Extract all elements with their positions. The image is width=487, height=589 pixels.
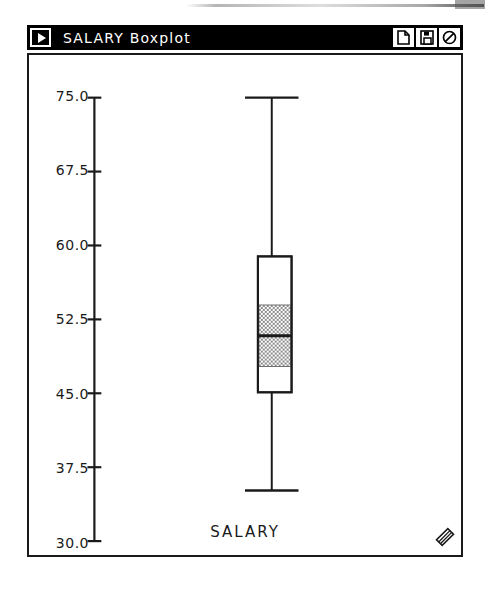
y-axis	[87, 98, 101, 541]
circle-slash-icon	[442, 30, 457, 45]
resize-grip-icon[interactable]	[434, 526, 456, 548]
title-bar-buttons	[393, 28, 460, 47]
close-button[interactable]	[439, 28, 460, 47]
document-icon	[397, 30, 410, 45]
y-tick-label: 67.5	[37, 162, 89, 178]
window-title: SALARY Boxplot	[63, 30, 393, 46]
scan-artifact-streak	[186, 4, 484, 7]
x-axis-label: SALARY	[29, 523, 461, 541]
triangle-right-icon	[38, 33, 46, 43]
y-tick-label: 45.0	[37, 386, 89, 402]
y-tick-label: 52.5	[37, 311, 89, 327]
y-tick-label: 60.0	[37, 237, 89, 253]
plot-frame: 75.0 67.5 60.0 52.5 45.0 37.5 30.0 SALAR…	[27, 53, 463, 557]
y-tick-label: 37.5	[37, 460, 89, 476]
boxplot-chart	[29, 55, 461, 555]
save-button[interactable]	[416, 28, 437, 47]
title-bar: SALARY Boxplot	[27, 25, 463, 50]
y-tick-label: 75.0	[37, 88, 89, 104]
scan-artifact-mark	[455, 0, 485, 9]
document-button[interactable]	[393, 28, 414, 47]
window-menu-button[interactable]	[30, 28, 51, 47]
floppy-disk-icon	[420, 30, 434, 45]
boxplot-series	[245, 98, 299, 491]
boxplot-window: SALARY Boxplot	[27, 25, 463, 557]
